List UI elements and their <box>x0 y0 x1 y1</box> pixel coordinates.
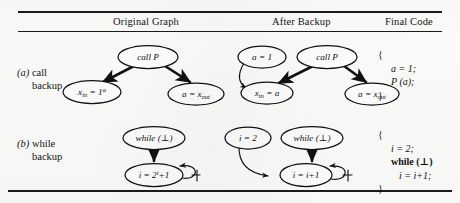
row-b-original-graph: while (⊥) i = 2i+1 <box>123 127 200 187</box>
code-a-close-brace: } <box>378 89 416 103</box>
code-a-line-1: a = 1; <box>378 62 416 76</box>
node-while-bot-label: while (⊥) <box>136 133 173 143</box>
code-a-open-brace: { <box>378 48 416 62</box>
node-xin-eq-a-label: xin = a <box>254 88 280 99</box>
edge-ieq2-to-ieqi1 <box>239 146 268 176</box>
node-i-eq-2-label: i = 2 <box>239 133 257 143</box>
node-i-eq-i-plus-1-label: i = i+1 <box>293 170 320 180</box>
edge-callp-to-xin <box>103 66 134 82</box>
code-b-open-brace: { <box>378 128 433 142</box>
final-code-block-b: { i = 2; while (⊥) i = i+1; } <box>378 128 433 196</box>
row-b-after-backup: i = 2 while (⊥) i = i+1 <box>225 127 352 187</box>
node-call-p-2-label: call P <box>316 52 338 62</box>
edge-aeq1-to-xineqa <box>239 63 246 88</box>
node-call-p-label: call P <box>137 52 159 62</box>
node-i-eq-2i-plus-1-label: i = 2i+1 <box>139 168 170 180</box>
code-a-line-2: P (a); <box>378 75 416 89</box>
self-loop-ieqi1 <box>330 166 345 179</box>
node-xin-assign-label: xin = 1a <box>77 85 107 98</box>
node-a-eq-1-label: a = 1 <box>252 52 272 62</box>
node-i-eq-2i-plus-1: i = 2i+1 <box>125 164 183 187</box>
node-while-bot-2-label: while (⊥) <box>294 133 331 143</box>
node-call-p-2: call P <box>297 46 357 69</box>
final-code-block-a: { a = 1; P (a); } <box>378 48 416 102</box>
node-a-eq-1: a = 1 <box>238 46 286 68</box>
code-b-line-3: i = i+1; <box>378 169 433 183</box>
node-while-bot: while (⊥) <box>123 127 185 150</box>
edge-callp-to-axout <box>165 66 190 82</box>
edge-callp2-to-xineqa <box>279 66 313 83</box>
row-a-original-graph: call P xin = 1a a = xout <box>63 46 224 106</box>
node-call-p: call P <box>118 46 178 69</box>
row-a-after-backup: a = 1 call P xin = a a = xout <box>238 46 399 106</box>
node-a-assign-xout: a = xout <box>168 83 224 105</box>
figure-container: Original Graph After Backup Final Code (… <box>0 0 460 203</box>
edge-callp2-to-aeqxout <box>344 66 366 82</box>
code-b-line-2: while (⊥) <box>391 156 433 167</box>
node-xin-assign: xin = 1a <box>63 81 121 104</box>
node-i-eq-i-plus-1: i = i+1 <box>280 164 332 187</box>
code-b-close-brace: } <box>378 182 433 196</box>
code-b-line-1: i = 2; <box>378 142 433 156</box>
node-xin-eq-a: xin = a <box>241 82 293 104</box>
node-while-bot-2: while (⊥) <box>281 127 343 150</box>
node-i-eq-2: i = 2 <box>225 127 271 149</box>
